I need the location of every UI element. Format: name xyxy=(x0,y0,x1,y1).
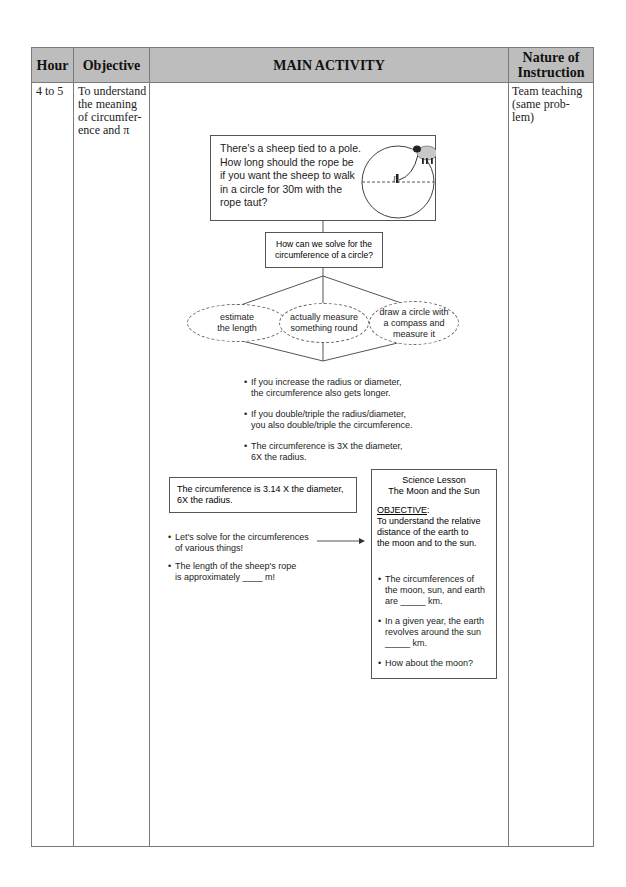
finding-item: • The circumference is 3X the diameter, … xyxy=(251,441,403,463)
science-bullet: • In a given year, the earth revolves ar… xyxy=(385,616,484,649)
science-objective: OBJECTIVE: To understand the relative di… xyxy=(372,505,496,549)
rope-line xyxy=(399,155,418,180)
science-bullet: • The circumferences of the moon, sun, a… xyxy=(385,574,485,607)
approach-compass: draw a circle witha compass andmeasure i… xyxy=(369,301,459,345)
next-step-item: • The length of the sheep's rope is appr… xyxy=(175,561,296,583)
pole-icon xyxy=(396,174,399,183)
svg-text:l: l xyxy=(393,174,396,184)
next-step-item: • Let's solve for the circumferences of … xyxy=(175,532,309,554)
approach-estimate: estimatethe length xyxy=(187,304,287,342)
approach-measure: actually measuresomething round xyxy=(279,303,369,343)
finding-item: • If you increase the radius or diameter… xyxy=(251,377,402,399)
science-lesson-title: Science Lesson The Moon and the Sun xyxy=(372,475,496,497)
pi-box: The circumference is 3.14 X the diameter… xyxy=(169,477,357,513)
finding-item: • If you double/triple the radius/diamet… xyxy=(251,409,413,431)
arrow-head-icon xyxy=(359,538,365,544)
sheep-problem-text: There's a sheep tied to a pole. How long… xyxy=(220,142,370,210)
circle-diagram: l xyxy=(361,138,436,220)
science-lesson-box: Science Lesson The Moon and the Sun OBJE… xyxy=(371,469,497,679)
question-box: How can we solve for the circumference o… xyxy=(265,232,383,268)
sheep-problem-box: There's a sheep tied to a pole. How long… xyxy=(210,135,436,221)
science-bullet: • How about the moon? xyxy=(385,658,473,669)
